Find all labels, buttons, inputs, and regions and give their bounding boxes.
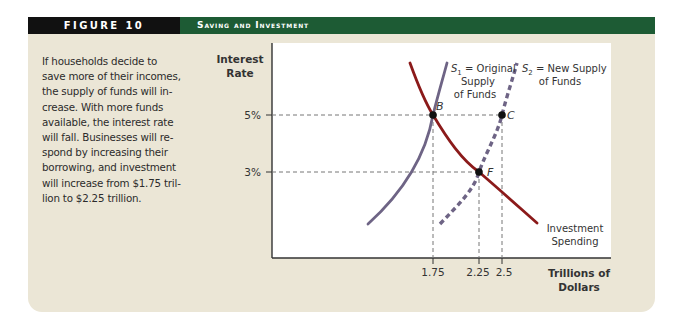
s1-supply-curve [368,63,447,224]
investment-label-line2: Spending [552,236,599,247]
investment-spending-curve [410,63,537,223]
s1-label-line3: of Funds [454,89,496,100]
s1-label: S1 = Original [451,63,516,77]
x-tick-label-225: 2.25 [466,266,489,278]
x-tick-label-175: 1.75 [421,266,444,278]
investment-label-line1: Investment [547,223,604,234]
y-axis-label-line1: Interest [216,53,263,65]
s1-label-line2: Supply [461,76,495,87]
s2-label: S2 = New Supply [522,63,607,77]
chart-svg: B C F S1 = Original Supply of Funds S2 =… [0,0,680,321]
y-tick-label-3: 3% [244,166,261,178]
point-f-marker [475,168,483,176]
point-c-label: C [507,109,515,122]
point-c-marker [498,111,506,119]
point-b-label: B [436,100,444,113]
guide-lines [272,115,502,258]
s2-label-line2: of Funds [539,76,581,87]
y-axis-label-line2: Rate [226,67,253,79]
x-tick-label-25: 2.5 [496,266,513,278]
point-f-label: F [487,166,494,179]
x-axis-label-line2: Dollars [558,281,600,293]
x-axis-label-line1: Trillions of [548,267,610,279]
y-tick-label-5: 5% [244,109,261,121]
